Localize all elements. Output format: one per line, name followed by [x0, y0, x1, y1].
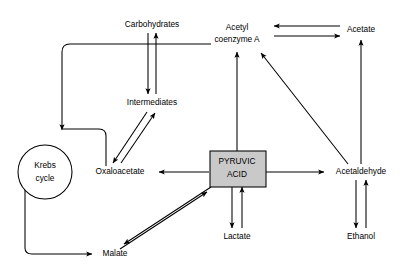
node-label-pyruvic-acid-line2: ACID: [227, 169, 247, 179]
edge-intermediates-to-oxaloacetate: [113, 112, 147, 163]
node-label-acetyl-coenzyme-a-line2: coenzyme A: [214, 34, 260, 44]
node-label-ethanol: Ethanol: [347, 231, 375, 241]
node-label-malate: Malate: [103, 248, 128, 258]
node-label-acetyl-coenzyme-a-line1: Acetyl: [226, 22, 249, 32]
edge-acetaldehyde-to-acetyl-coa: [261, 53, 348, 164]
node-label-oxaloacetate: Oxaloacetate: [96, 166, 145, 176]
node-label-pyruvic-acid-line1: PYRUVIC: [219, 156, 256, 166]
pathway-diagram: Carbohydrates Acetyl coenzyme A Acetate …: [0, 0, 410, 275]
krebs-cycle-circle: [18, 145, 72, 199]
node-label-acetaldehyde: Acetaldehyde: [336, 166, 387, 176]
node-label-intermediates: Intermediates: [127, 97, 177, 107]
node-label-lactate: Lactate: [223, 231, 251, 241]
edge-pyruvic-to-malate: [124, 187, 211, 244]
pathway-svg: Carbohydrates Acetyl coenzyme A Acetate …: [0, 0, 410, 275]
node-label-acetate: Acetate: [347, 24, 376, 34]
edge-oxaloacetate-to-intermediates: [121, 113, 155, 163]
edge-malate-to-pyruvic: [120, 192, 207, 249]
node-label-carbohydrates: Carbohydrates: [125, 19, 179, 29]
edge-intermediates-to-krebs: [62, 44, 211, 130]
node-label-krebs-cycle-line2: cycle: [36, 173, 55, 183]
node-label-krebs-cycle-line1: Krebs: [34, 160, 56, 170]
